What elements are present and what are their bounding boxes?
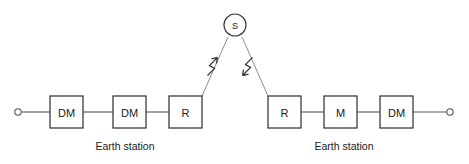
right-terminal-circle-icon [447, 109, 453, 115]
right-earth-station-caption: Earth station [315, 140, 374, 152]
downlink-beam [242, 37, 268, 96]
block-left-r-label: R [182, 107, 190, 119]
left-earth-station-caption: Earth station [96, 140, 155, 152]
block-left-dm2: DM [113, 96, 146, 128]
right-station-blocks: R M DM [268, 96, 413, 128]
block-right-r: R [268, 96, 301, 128]
block-right-m: M [324, 96, 357, 128]
uplink-beam [202, 37, 228, 96]
left-terminal-circle-icon [15, 109, 21, 115]
block-left-dm1-label: DM [58, 107, 75, 119]
block-right-r-label: R [281, 107, 289, 119]
block-left-dm1: DM [50, 96, 83, 128]
left-station-blocks: DM DM R [50, 96, 202, 128]
block-left-r: R [169, 96, 202, 128]
block-right-dm: DM [380, 96, 413, 128]
satellite-link-diagram: S DM DM R R M [0, 0, 469, 164]
downlink-arrow-icon [243, 58, 253, 76]
downlink-beam-line [242, 37, 268, 96]
uplink-beam-line [202, 37, 228, 96]
satellite-label: S [232, 21, 238, 31]
diagram-canvas: S DM DM R R M [0, 0, 469, 164]
block-right-dm-label: DM [388, 107, 405, 119]
block-right-m-label: M [336, 107, 345, 119]
satellite-node: S [224, 14, 246, 36]
block-left-dm2-label: DM [121, 107, 138, 119]
